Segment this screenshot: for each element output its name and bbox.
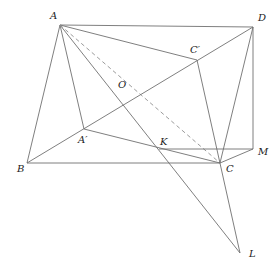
point-label-m: M (257, 146, 269, 157)
point-label-d: D (257, 12, 266, 23)
segment-a-b (27, 25, 60, 163)
point-label-cp: C′ (190, 44, 201, 55)
point-label-o: O (118, 79, 126, 90)
point-label-ap: A′ (77, 134, 88, 145)
segment-c-m (220, 149, 253, 163)
point-label-b: B (16, 163, 24, 174)
diagram-canvas: ADC′OA′BKCML (0, 0, 280, 270)
labels-layer: ADC′OA′BKCML (16, 10, 269, 259)
segment-cp-l (197, 60, 240, 253)
segment-ap-c (84, 129, 220, 163)
point-label-l: L (248, 248, 256, 259)
point-label-c: C (226, 163, 234, 174)
point-label-k: K (159, 136, 168, 147)
segment-a-d (60, 25, 253, 27)
point-label-a: A (49, 10, 57, 21)
geometry-diagram: ADC′OA′BKCML (0, 0, 280, 270)
segment-d-c (220, 27, 253, 163)
segments-layer (27, 25, 253, 253)
segment-a-cp (60, 25, 197, 60)
